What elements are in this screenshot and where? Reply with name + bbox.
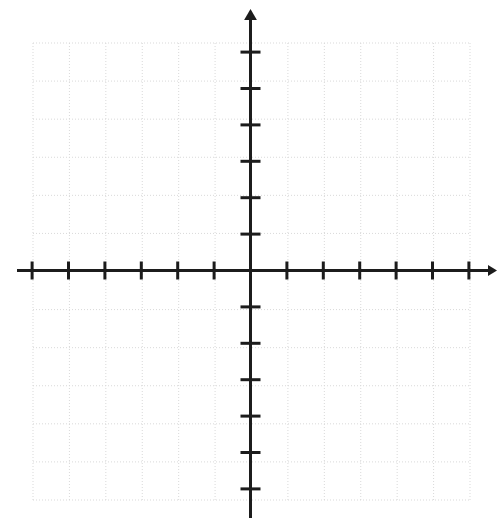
graph-canvas (0, 0, 503, 525)
coordinate-grid-figure (0, 0, 503, 525)
